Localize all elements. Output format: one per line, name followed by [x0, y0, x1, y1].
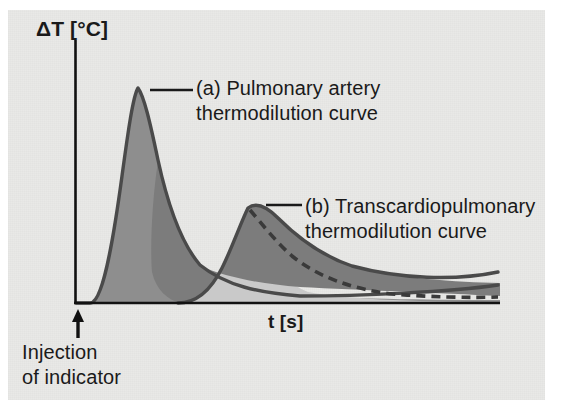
thermodilution-figure: ΔT [°C] t [s] (a) Pulmonary artery therm…: [0, 0, 567, 412]
up-arrow-icon: [72, 309, 84, 338]
injection-of-indicator-label: Injection of indicator: [22, 340, 121, 390]
y-axis-label: ΔT [°C]: [36, 16, 108, 42]
curve-b-label: (b) Transcardiopulmonary thermodilution …: [305, 194, 535, 244]
x-axis-label: t [s]: [268, 310, 303, 334]
curve-a-label: (a) Pulmonary artery thermodilution curv…: [196, 76, 380, 126]
